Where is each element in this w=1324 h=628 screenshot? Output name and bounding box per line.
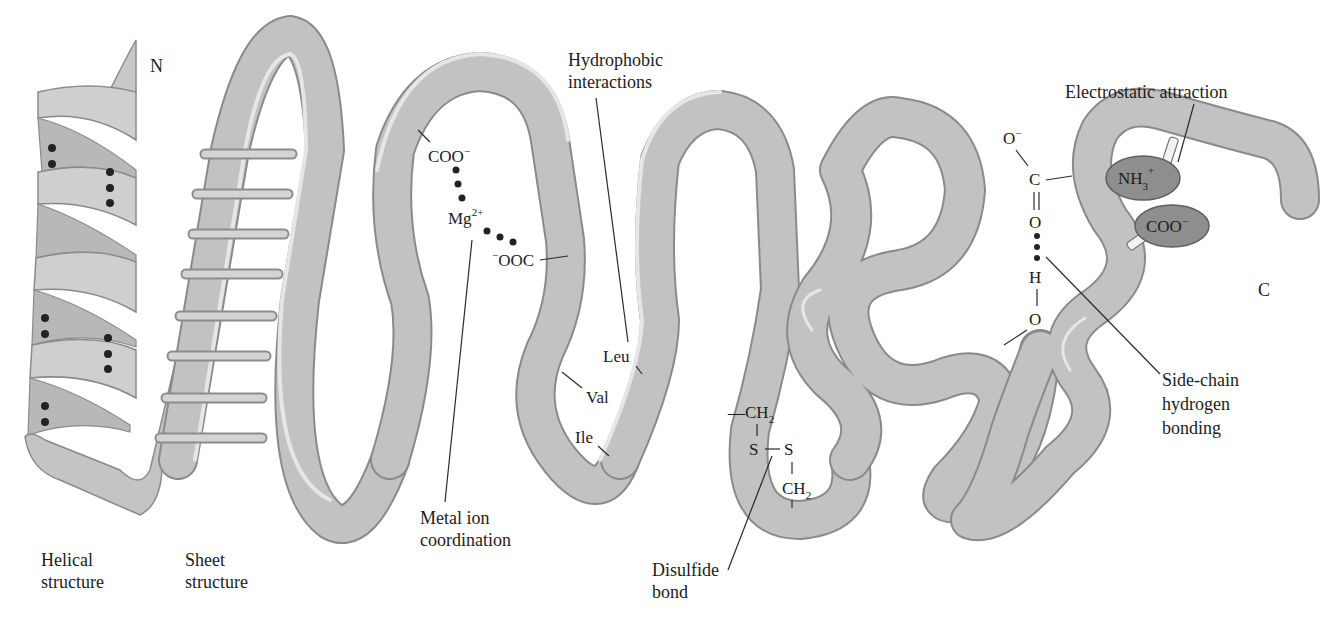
disulfide-s2: S [784,440,793,459]
residue-ile: Ile [575,428,593,447]
disulfide-caption-line1: Disulfide [652,560,719,580]
hydrophobic-caption-line1: Hydrophobic [568,50,663,70]
metal-ion-loop: COO− Mg2+ −OOC Metal ion coordination [377,54,620,550]
helical-caption-line1: Helical [41,550,93,570]
hbond-o-minus: O− [1003,127,1022,148]
mg-ion-label: Mg2+ [448,206,483,228]
sheet-caption-line2: structure [185,572,248,592]
disulfide-top-ch2: —CH2 [727,403,774,425]
structure-captions: Helical structure Sheet structure [41,550,248,592]
sheet-caption-line1: Sheet [185,550,225,570]
protein-tertiary-structure-diagram: N COO− Mg2+ [0,0,1324,628]
hbond-hydrogen: H [1029,268,1041,287]
ligand-ooc-label: −OOC [492,249,534,270]
disulfide-bottom-ch2: CH2 [782,479,811,501]
helical-caption-line2: structure [41,572,104,592]
metal-ion-leader [445,240,472,502]
beta-sheet [160,35,390,524]
residue-leu: Leu [603,347,630,366]
disulfide-s1: S [749,440,758,459]
electrostatic-caption: Electrostatic attraction [1065,82,1227,102]
hydrophobic-leader [596,98,628,342]
ligand-coo-label: COO− [428,145,470,166]
carboxylate-label: COO− [1146,215,1188,236]
n-terminus-label: N [150,56,163,76]
hydrophobic-caption-line2: interactions [568,72,652,92]
hbond-carbon: C [1029,170,1040,189]
hbond-o-donor: O [1029,310,1041,329]
hbond-caption-line3: bonding [1162,418,1221,438]
metal-ion-caption-line1: Metal ion [420,508,490,528]
hbond-caption-line2: hydrogen [1162,394,1230,414]
c-terminus-label: C [1258,280,1270,300]
disulfide-caption-line2: bond [652,582,688,602]
hbond-o-acceptor: O [1029,213,1041,232]
metal-ion-caption-line2: coordination [420,530,511,550]
sheet-hbond-rungs [160,154,292,438]
residue-val: Val [586,388,609,407]
hbond-caption-line1: Side-chain [1162,370,1239,390]
